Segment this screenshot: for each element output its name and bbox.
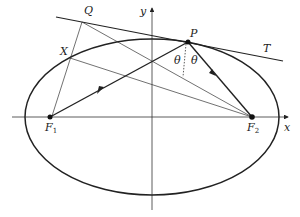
point-f1 — [48, 115, 53, 120]
label-p: P — [189, 27, 198, 40]
label-f2: F2 — [246, 121, 259, 135]
label-theta-left: θ — [174, 54, 181, 67]
label-x-point: X — [59, 45, 69, 58]
ellipse-reflection-diagram: y x Q X P T θ θ F1 F2 — [0, 0, 300, 217]
ray-arrow-icon — [97, 86, 104, 94]
point-f2 — [249, 114, 255, 120]
line-x-f2 — [70, 58, 252, 117]
ray-f1-p — [50, 42, 188, 117]
point-p — [186, 40, 191, 45]
label-x: x — [284, 121, 291, 134]
label-theta-right: θ — [191, 54, 198, 67]
normal-line — [183, 44, 186, 77]
tangent-line — [56, 17, 283, 61]
label-f1: F1 — [44, 121, 57, 135]
label-t: T — [263, 42, 272, 55]
line-q-f2 — [82, 22, 252, 117]
ray-arrow-icon — [209, 69, 216, 76]
label-q: Q — [84, 4, 93, 17]
label-y: y — [139, 5, 147, 18]
